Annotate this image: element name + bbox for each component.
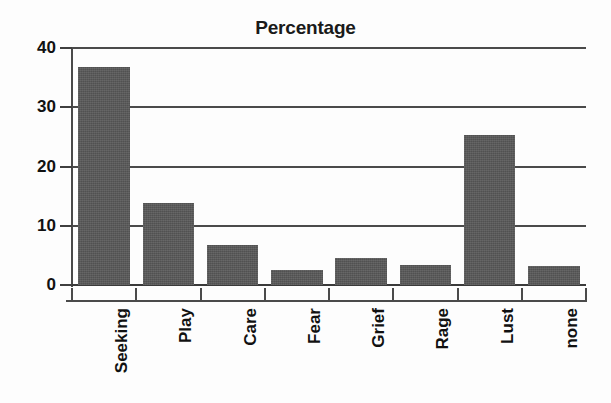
x-tick-mark-2 [200, 288, 202, 302]
y-tick-label-40: 40 [14, 39, 56, 56]
x-tick-mark-5 [392, 288, 394, 302]
x-axis-label-lust: Lust [499, 308, 516, 344]
bar-none [528, 266, 579, 285]
x-axis-label-play: Play [177, 308, 194, 343]
y-tick-label-20: 20 [14, 158, 56, 175]
y-tick-label-30: 30 [14, 98, 56, 115]
x-tick-mark-3 [264, 288, 266, 302]
gridline-30 [72, 106, 586, 108]
bar-rage [400, 265, 451, 285]
bar-fear [271, 270, 322, 285]
y-tick-label-10: 10 [14, 217, 56, 234]
x-tick-mark-6 [457, 288, 459, 302]
bar-play [143, 203, 194, 285]
bar-lust [464, 135, 515, 285]
bar-care [207, 245, 258, 285]
plot-area [72, 48, 586, 285]
x-axis-line [66, 300, 587, 302]
x-axis-label-seeking: Seeking [113, 308, 130, 373]
x-axis-label-grief: Grief [370, 308, 387, 348]
x-tick-mark-end [585, 288, 587, 302]
x-axis-label-rage: Rage [434, 308, 451, 350]
gridline-40 [72, 47, 586, 49]
x-tick-mark-0 [71, 288, 73, 302]
x-axis-label-none: none [563, 308, 580, 349]
bar-chart: Percentage 403020100 SeekingPlayCareFear… [0, 0, 611, 403]
x-axis-label-fear: Fear [306, 308, 323, 344]
bar-grief [335, 258, 386, 285]
x-axis-label-care: Care [242, 308, 259, 346]
x-tick-mark-7 [521, 288, 523, 302]
y-tick-label-0: 0 [14, 276, 56, 293]
x-tick-mark-4 [328, 288, 330, 302]
x-tick-mark-1 [135, 288, 137, 302]
bar-seeking [78, 67, 129, 285]
chart-title: Percentage [0, 17, 611, 39]
